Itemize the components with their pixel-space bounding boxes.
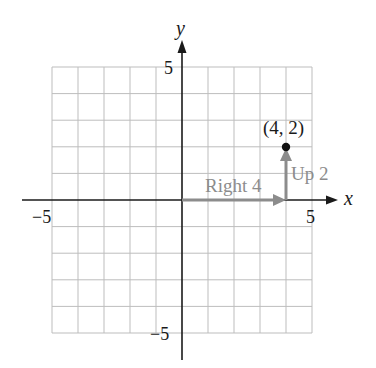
- point-label: (4, 2): [263, 118, 304, 137]
- point-marker: [282, 143, 290, 151]
- x-axis-label: x: [344, 188, 353, 208]
- up-move-label: Up 2: [291, 164, 328, 183]
- x-tick-label-right: 5: [306, 208, 315, 226]
- y-tick-label-bottom: −5: [150, 325, 169, 343]
- y-tick-label-top: 5: [164, 59, 173, 77]
- right-arrowhead-icon: [273, 194, 286, 206]
- x-tick-label-left: −5: [32, 208, 51, 226]
- coordinate-plane: [0, 0, 376, 368]
- y-axis-label: y: [176, 18, 185, 38]
- y-axis-arrow-icon: [178, 40, 187, 53]
- axes: [22, 40, 338, 360]
- x-axis-arrow-icon: [326, 196, 338, 205]
- right-move-label: Right 4: [205, 176, 261, 195]
